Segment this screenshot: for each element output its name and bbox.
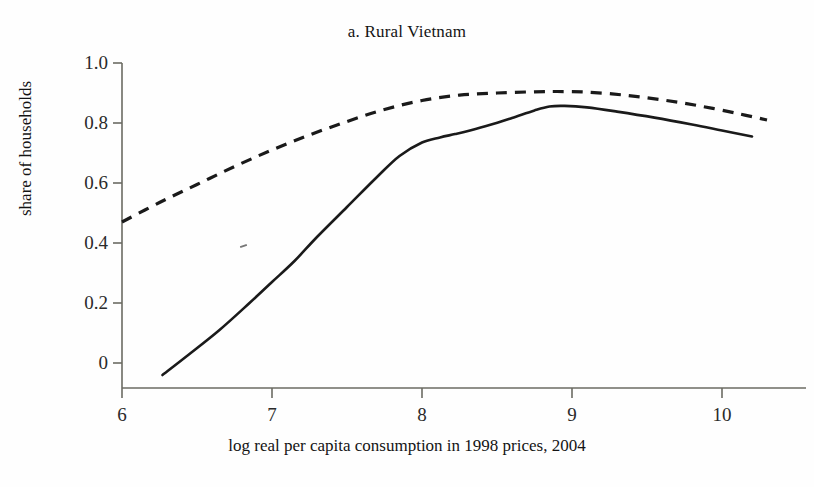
y-tick-label: 0.6 <box>40 172 108 194</box>
x-tick-label: 9 <box>567 404 577 426</box>
y-tick-label: 0.8 <box>40 112 108 134</box>
y-tick-label: 0 <box>40 352 108 374</box>
x-tick-label: 10 <box>713 404 732 426</box>
y-tick-label: 0.4 <box>40 232 108 254</box>
x-tick-label: 7 <box>267 404 277 426</box>
solid-curve <box>163 106 753 375</box>
dashed-curve <box>122 91 767 222</box>
y-axis-ticks <box>113 63 122 363</box>
x-axis-ticks <box>122 388 722 398</box>
chart-figure: a. Rural Vietnam share of households log… <box>0 0 814 487</box>
axis-lines <box>122 63 806 388</box>
y-tick-label: 1.0 <box>40 52 108 74</box>
x-axis-title: log real per capita consumption in 1998 … <box>0 436 814 456</box>
y-tick-label: 0.2 <box>40 292 108 314</box>
x-tick-label: 6 <box>117 404 127 426</box>
y-axis-title: share of households <box>16 81 36 216</box>
x-tick-label: 8 <box>417 404 427 426</box>
